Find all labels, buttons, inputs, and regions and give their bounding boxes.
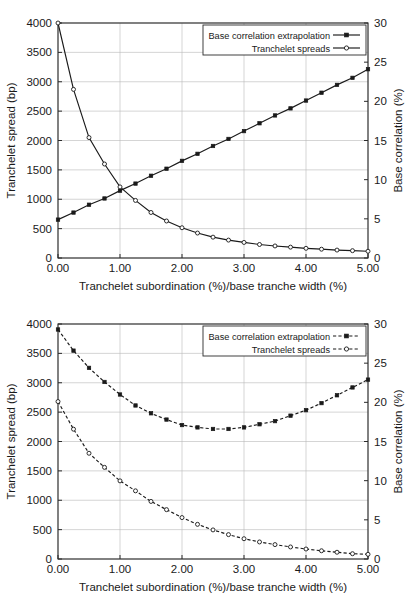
y2-axis-tick-label: 20 [374,396,387,408]
data-point-marker [242,129,245,132]
y-axis-right-ticks: 051015202530 [364,17,387,264]
x-axis-tick-label: 2.00 [171,563,193,575]
legend-label: Tranchelet spreads [252,345,331,355]
y2-axis-title: Base correlation (%) [392,88,404,192]
x-axis-ticks: 0.001.002.003.004.005.00 [47,254,379,274]
data-point-marker [366,68,369,71]
data-point-marker [72,211,75,214]
x-axis-tick-label: 0.00 [47,262,69,274]
data-point-marker [118,393,121,396]
data-point-marker [351,386,354,389]
data-point-marker [273,419,276,422]
data-point-marker [149,210,153,214]
legend-label: Tranchelet spreads [252,44,331,54]
data-point-marker [196,231,200,235]
data-point-marker [320,247,324,251]
x-axis-tick-label: 3.00 [233,563,255,575]
data-point-marker [87,451,91,455]
data-point-marker [258,423,261,426]
y-axis-tick-label: 3500 [26,46,52,58]
data-point-marker [366,552,370,556]
x-axis-tick-label: 4.00 [295,262,317,274]
data-point-marker [289,107,292,110]
data-point-marker [258,540,262,544]
x-axis-tick-label: 5.00 [357,563,379,575]
legend-marker [344,46,348,50]
data-point-marker [149,174,152,177]
y-axis-tick-label: 2000 [26,135,52,147]
data-point-marker [56,400,60,404]
y-axis-tick-label: 500 [33,223,52,235]
y-axis-tick-label: 4000 [26,318,52,330]
y-axis-tick-label: 1500 [26,164,52,176]
data-point-marker [72,427,76,431]
y-axis-left-ticks: 05001000150020002500300035004000 [26,17,62,264]
data-point-marker [335,550,339,554]
legend-marker [344,347,348,351]
chart-top-svg: 0500100015002000250030003500400005101520… [0,0,415,301]
data-point-marker [227,137,230,140]
data-point-marker [196,522,200,526]
data-point-marker [227,427,230,430]
x-axis-tick-label: 1.00 [109,262,131,274]
y2-axis-tick-label: 30 [374,17,387,29]
data-point-marker [180,423,183,426]
data-point-marker [56,218,59,221]
chart-bottom-svg: 0500100015002000250030003500400005101520… [0,301,415,602]
data-point-marker [366,378,369,381]
data-point-marker [289,545,293,549]
data-point-marker [211,235,215,239]
data-point-marker [134,182,137,185]
data-point-marker [87,366,90,369]
y2-axis-tick-label: 20 [374,95,387,107]
data-point-marker [211,144,214,147]
data-point-marker [273,244,277,248]
y-axis-tick-label: 3500 [26,347,52,359]
data-point-marker [72,349,75,352]
y-axis-tick-label: 1000 [26,494,52,506]
data-point-marker [87,203,90,206]
data-point-marker [335,83,338,86]
y-axis-left-ticks: 05001000150020002500300035004000 [26,318,62,565]
data-point-marker [289,414,292,417]
series-1 [56,68,369,222]
series-line [58,23,368,251]
legend-marker [345,33,349,37]
data-point-marker [320,401,323,404]
y-axis-tick-label: 3000 [26,76,52,88]
legend-label: Base correlation extrapolation [208,332,330,342]
y-axis-right-ticks: 051015202530 [364,318,387,565]
y-axis-tick-label: 2500 [26,105,52,117]
data-point-marker [87,136,91,140]
data-point-marker [165,418,168,421]
data-point-marker [149,499,153,503]
y2-axis-tick-label: 10 [374,475,387,487]
x-axis-tick-label: 4.00 [295,563,317,575]
y-axis-tick-label: 4000 [26,17,52,29]
data-point-marker [242,537,246,541]
data-point-marker [335,394,338,397]
y2-axis-tick-label: 30 [374,318,387,330]
data-point-marker [134,404,137,407]
data-point-marker [165,219,169,223]
data-point-marker [304,408,307,411]
x-axis-tick-label: 0.00 [47,563,69,575]
data-point-marker [118,189,121,192]
x-axis-tick-label: 2.00 [171,262,193,274]
y-axis-tick-label: 2000 [26,436,52,448]
data-point-marker [118,479,122,483]
data-point-marker [258,242,262,246]
data-point-marker [304,99,307,102]
y2-axis-tick-label: 15 [374,436,387,448]
data-point-marker [211,528,215,532]
data-point-marker [304,547,308,551]
x-axis-tick-label: 3.00 [233,262,255,274]
chart-panel-top: 0500100015002000250030003500400005101520… [0,0,415,301]
data-point-marker [165,167,168,170]
x-axis-ticks: 0.001.002.003.004.005.00 [47,555,379,575]
data-point-marker [72,87,76,91]
data-point-marker [180,226,184,230]
y2-axis-tick-label: 5 [374,213,380,225]
y2-axis-title: Base correlation (%) [392,389,404,493]
data-point-marker [180,516,184,520]
